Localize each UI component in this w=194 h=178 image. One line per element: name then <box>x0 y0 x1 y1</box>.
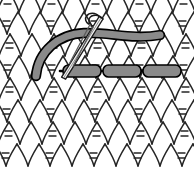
woven-band-segment-2 <box>103 65 141 77</box>
woven-band-segment-3 <box>143 65 181 77</box>
knitting-diagram-figure: Weaving in yarn end with tapestry needle… <box>0 0 194 178</box>
horizontal-woven-band <box>60 65 181 77</box>
diagram-canvas <box>0 0 194 178</box>
